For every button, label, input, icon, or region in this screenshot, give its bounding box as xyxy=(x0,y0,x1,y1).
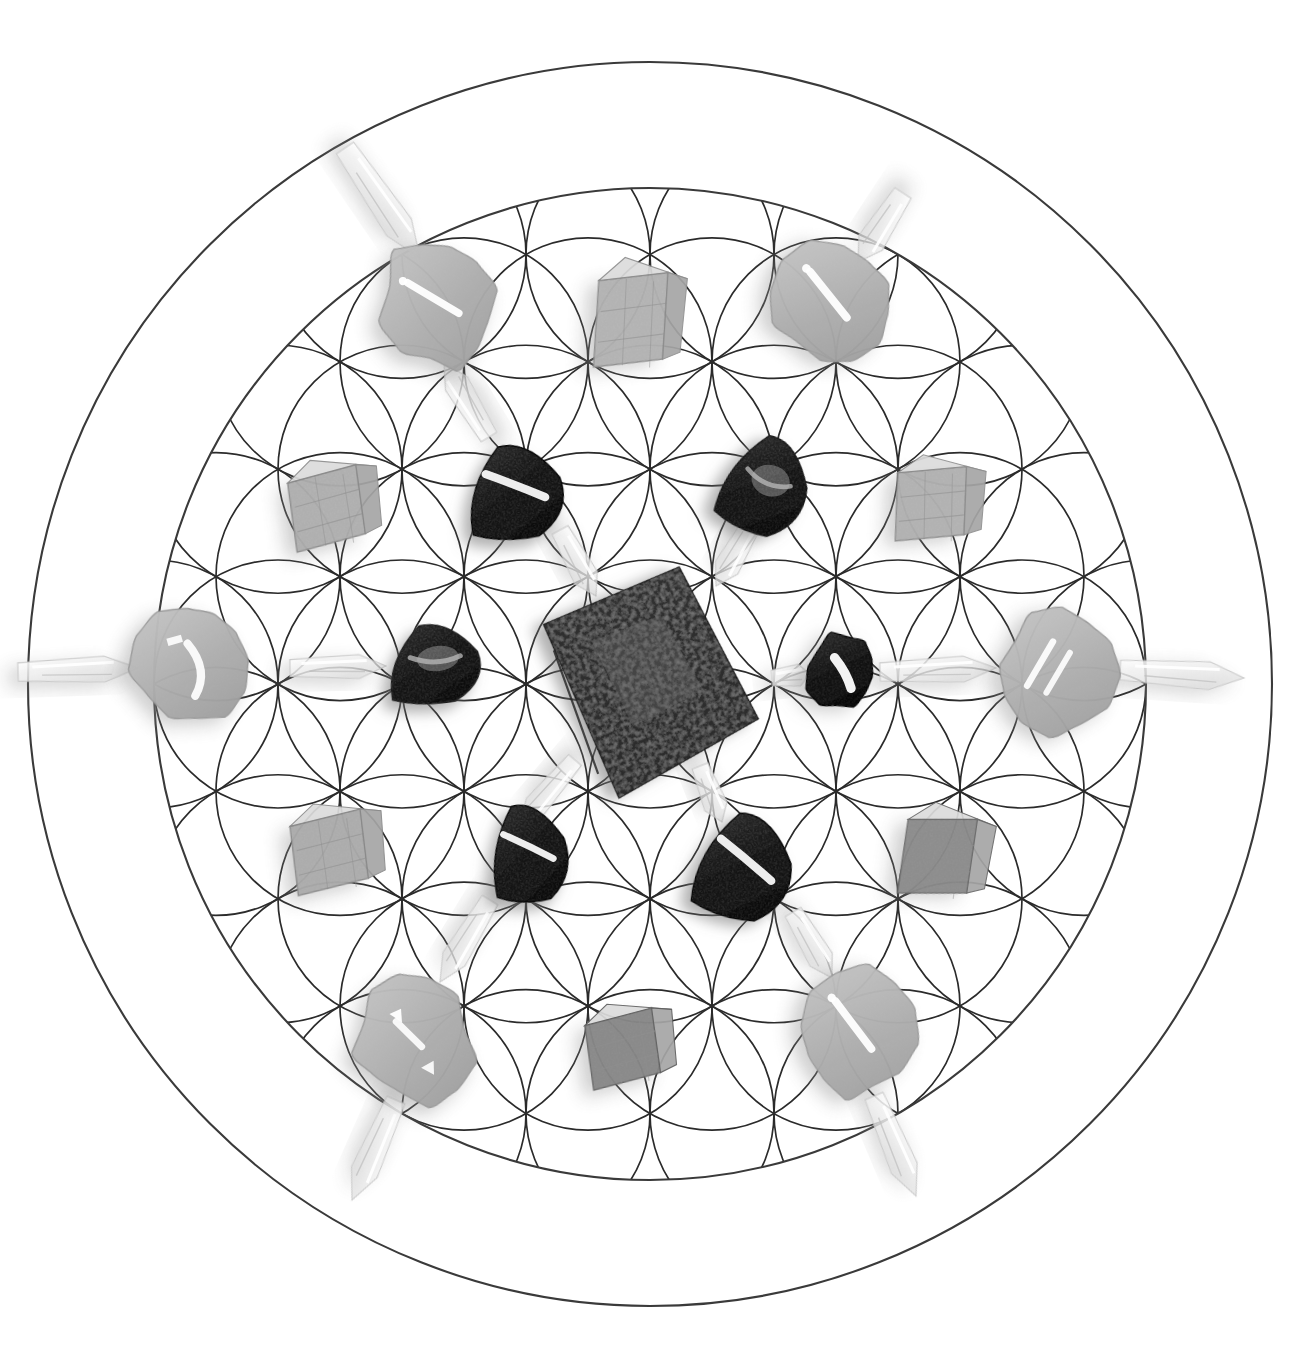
crystal-grid-canvas: Flower of Life Crystal Grid xyxy=(0,0,1302,1365)
flower-of-life-geometry xyxy=(0,0,1302,1365)
